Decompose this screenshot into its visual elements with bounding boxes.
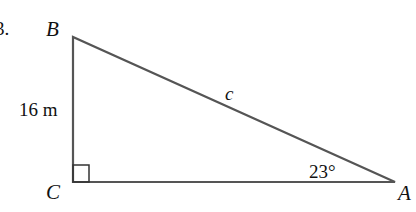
triangle-outline xyxy=(73,37,395,182)
vertex-label-b: B xyxy=(46,19,59,40)
problem-number: 3. xyxy=(0,19,9,38)
vertex-label-a: A xyxy=(398,183,411,204)
right-angle-marker xyxy=(73,165,89,182)
angle-label-a: 23° xyxy=(309,162,336,181)
right-triangle-diagram: 3. B C A 16 m c 23° xyxy=(0,0,416,212)
side-label-bc: 16 m xyxy=(19,100,58,119)
vertex-label-c: C xyxy=(46,182,60,203)
triangle-figure xyxy=(0,0,416,212)
side-label-c: c xyxy=(225,84,233,103)
